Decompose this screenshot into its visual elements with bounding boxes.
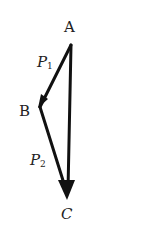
vector-label-p2-sub: 2 xyxy=(40,159,46,169)
point-label-a: A xyxy=(64,20,75,35)
point-label-b: B xyxy=(19,104,30,119)
vector-resultant-line xyxy=(68,45,71,190)
vector-label-p1-main: P xyxy=(37,53,47,71)
vector-p2-line xyxy=(40,107,66,190)
vector-label-p2: P2 xyxy=(30,153,46,169)
vector-label-p2-main: P xyxy=(30,151,40,169)
vector-label-p1-sub: 1 xyxy=(47,61,53,71)
vector-c-arrowhead-icon xyxy=(58,180,75,200)
vector-label-p1: P1 xyxy=(37,55,53,71)
point-label-c: C xyxy=(61,207,72,220)
